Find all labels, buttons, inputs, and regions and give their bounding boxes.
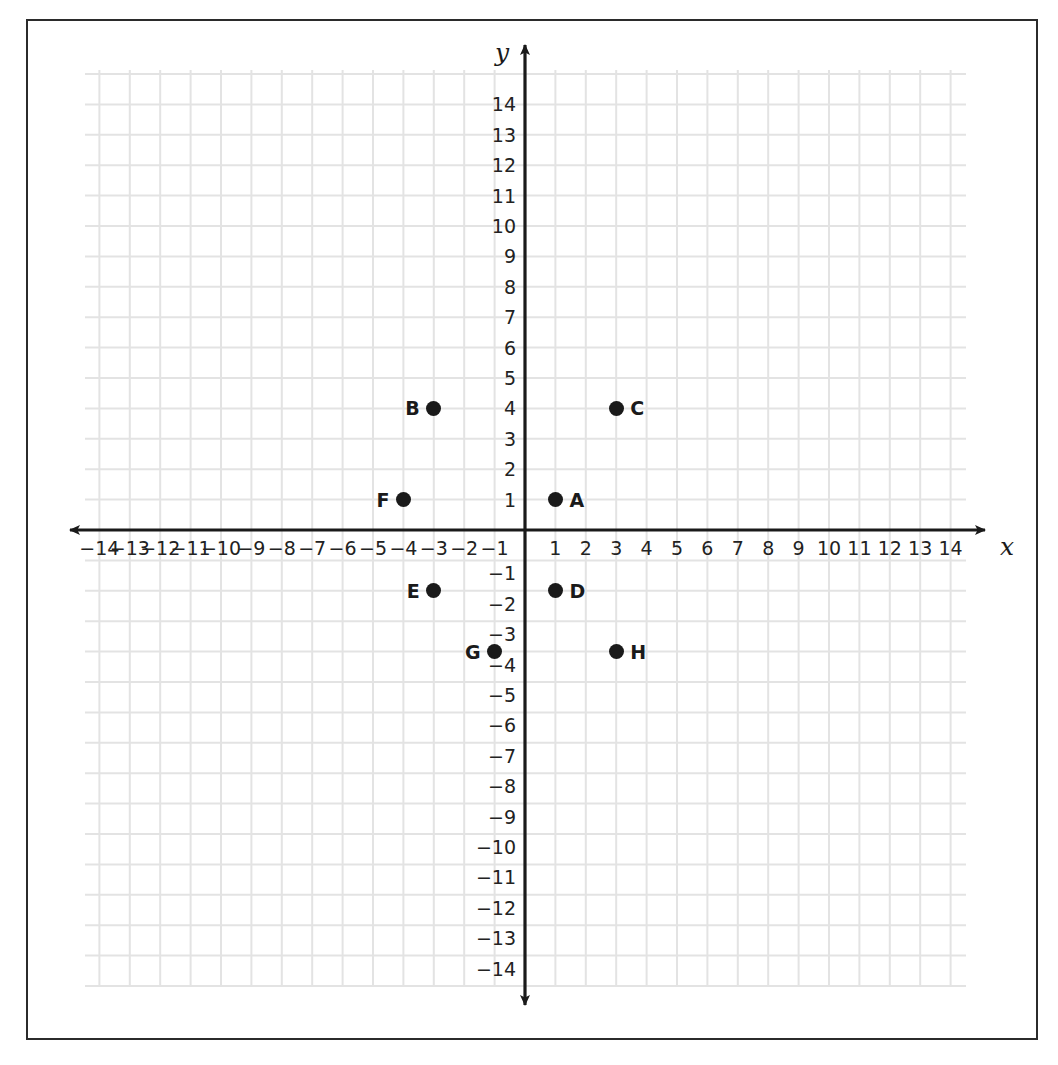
y-tick-label: −6 — [488, 716, 516, 735]
y-tick-label: 6 — [504, 338, 516, 357]
point-label-d: D — [569, 581, 585, 600]
y-tick-label: −7 — [488, 746, 516, 765]
y-tick-label: −14 — [476, 959, 516, 978]
x-tick-label: 11 — [847, 539, 871, 558]
plot-point-a[interactable] — [548, 492, 563, 507]
y-tick-label: −9 — [488, 807, 516, 826]
y-tick-label: 7 — [504, 308, 516, 327]
point-label-g: G — [465, 642, 481, 661]
y-tick-label: −11 — [476, 868, 516, 887]
y-tick-label: 9 — [504, 247, 516, 266]
y-tick-label: −10 — [476, 838, 516, 857]
y-tick-label: −13 — [476, 929, 516, 948]
x-tick-label: 13 — [908, 539, 932, 558]
x-tick-label: −7 — [298, 539, 326, 558]
x-tick-label: −3 — [420, 539, 448, 558]
y-tick-label: −3 — [488, 625, 516, 644]
point-label-a: A — [569, 490, 584, 509]
x-tick-label: 8 — [762, 539, 774, 558]
plot-point-h[interactable] — [609, 644, 624, 659]
y-tick-label: 8 — [504, 277, 516, 296]
y-tick-label: 5 — [504, 369, 516, 388]
x-tick-label: 10 — [817, 539, 841, 558]
x-tick-label: 7 — [732, 539, 744, 558]
x-tick-label: −10 — [201, 539, 241, 558]
x-tick-label: −1 — [481, 539, 509, 558]
y-tick-label: −2 — [488, 594, 516, 613]
x-tick-label: −8 — [268, 539, 296, 558]
x-tick-label: −9 — [237, 539, 265, 558]
x-tick-label: −5 — [359, 539, 387, 558]
y-tick-label: 3 — [504, 429, 516, 448]
y-tick-label: 1 — [504, 490, 516, 509]
axis-lines — [70, 45, 985, 1005]
plot-point-f[interactable] — [396, 492, 411, 507]
y-tick-label: −1 — [488, 564, 516, 583]
y-tick-label: 14 — [492, 95, 516, 114]
plot-point-c[interactable] — [609, 401, 624, 416]
y-tick-label: 13 — [492, 125, 516, 144]
y-tick-label: 12 — [492, 156, 516, 175]
y-tick-label: −5 — [488, 686, 516, 705]
x-tick-label: 12 — [878, 539, 902, 558]
y-tick-label: 4 — [504, 399, 516, 418]
x-tick-label: −2 — [450, 539, 478, 558]
point-label-h: H — [630, 642, 646, 661]
x-axis-label: x — [1000, 534, 1014, 559]
y-tick-label: 11 — [492, 186, 516, 205]
x-tick-label: 6 — [701, 539, 713, 558]
x-tick-label: −6 — [329, 539, 357, 558]
x-tick-label: 1 — [549, 539, 561, 558]
x-tick-label: 3 — [610, 539, 622, 558]
point-label-e: E — [407, 581, 420, 600]
x-tick-label: 14 — [939, 539, 963, 558]
x-tick-label: 5 — [671, 539, 683, 558]
worksheet-page: −14−13−12−11−10−9−8−7−6−5−4−3−2−11234567… — [0, 0, 1058, 1065]
y-tick-label: 2 — [504, 460, 516, 479]
y-axis-label: y — [495, 40, 509, 65]
y-tick-label: 10 — [492, 217, 516, 236]
x-tick-label: 2 — [580, 539, 592, 558]
y-tick-label: −12 — [476, 898, 516, 917]
x-tick-label: 4 — [641, 539, 653, 558]
point-label-f: F — [376, 490, 389, 509]
x-tick-label: −4 — [389, 539, 417, 558]
point-label-c: C — [630, 399, 644, 418]
y-tick-label: −8 — [488, 777, 516, 796]
coordinate-plane-svg — [0, 0, 1058, 1065]
x-tick-label: 9 — [793, 539, 805, 558]
point-label-b: B — [405, 399, 419, 418]
